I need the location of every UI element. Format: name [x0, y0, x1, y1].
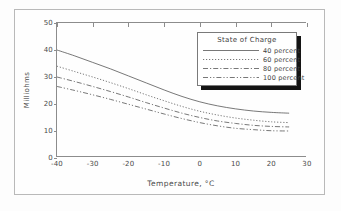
x-tick-label: -10 — [158, 160, 170, 168]
y-tick-mark — [54, 77, 57, 78]
legend-item-label: 80 percent — [263, 65, 300, 73]
x-tick-mark — [236, 23, 237, 27]
x-tick-label: 10 — [231, 160, 240, 168]
x-tick-mark — [93, 23, 94, 27]
x-tick-label: 20 — [267, 160, 276, 168]
y-tick-mark — [54, 131, 57, 132]
y-tick-mark — [54, 50, 57, 51]
y-tick-label: 50 — [44, 19, 53, 27]
x-tick-mark — [164, 23, 165, 27]
y-tick-label: 40 — [44, 46, 53, 54]
y-tick-mark — [54, 104, 57, 105]
x-tick-mark — [271, 23, 272, 27]
x-tick-label: -20 — [122, 160, 134, 168]
legend-line-sample — [203, 50, 259, 51]
x-tick-label: -30 — [87, 160, 99, 168]
figure-container: 01020304050-40-30-20-100102030 Milliohms… — [0, 0, 341, 211]
x-tick-label: 30 — [302, 160, 311, 168]
legend-title: State of Charge — [198, 36, 296, 44]
x-tick-mark — [57, 23, 58, 27]
legend-line-sample — [203, 77, 259, 78]
x-tick-mark — [128, 23, 129, 27]
y-tick-label: 20 — [44, 100, 53, 108]
y-tick-mark — [54, 158, 57, 159]
legend-item: 40 percent — [198, 46, 296, 55]
legend-item-label: 40 percent — [263, 47, 300, 55]
x-tick-mark — [200, 23, 201, 27]
legend-item: 80 percent — [198, 64, 296, 73]
y-tick-label: 30 — [44, 73, 53, 81]
x-tick-label: -40 — [51, 160, 63, 168]
legend-item: 60 percent — [198, 55, 296, 64]
legend-item-label: 100 percent — [263, 74, 305, 82]
legend-box: State of Charge 40 percent60 percent80 p… — [197, 32, 297, 86]
legend-items: 40 percent60 percent80 percent100 percen… — [198, 46, 296, 82]
y-tick-label: 10 — [44, 127, 53, 135]
legend-line-sample — [203, 68, 259, 69]
legend-item-label: 60 percent — [263, 56, 300, 64]
x-axis-title: Temperature, °C — [147, 179, 214, 188]
legend-item: 100 percent — [198, 73, 296, 82]
x-tick-mark — [307, 23, 308, 27]
x-tick-label: 0 — [198, 160, 203, 168]
y-axis-title: Milliohms — [23, 72, 31, 109]
legend-line-sample — [203, 59, 259, 60]
